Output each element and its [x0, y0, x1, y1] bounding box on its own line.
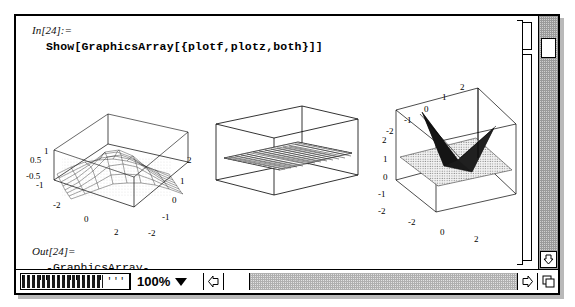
ruler-ticks — [22, 275, 103, 288]
svg-text:2: 2 — [474, 234, 479, 242]
output-prompt-label: Out[24]= — [32, 245, 75, 257]
vertical-scrollbar-thumb[interactable] — [541, 38, 556, 58]
horizontal-scrollbar[interactable] — [250, 273, 518, 290]
vertical-scrollbar[interactable] — [538, 16, 558, 269]
input-prompt-label: In[24]:= — [32, 24, 72, 36]
left-arrow-icon — [207, 275, 220, 288]
svg-text:-1: -1 — [36, 180, 44, 190]
svg-text:-1: -1 — [162, 212, 170, 222]
down-arrow-icon — [543, 254, 554, 265]
status-bar: ''' 100% — [16, 269, 558, 293]
zoom-value: 100% — [137, 274, 170, 289]
svg-text:2: 2 — [187, 155, 192, 165]
output-code-cell: -GraphicsArray- — [46, 261, 150, 269]
input-code-cell[interactable]: Show[GraphicsArray[{plotf,plotz,both}]] — [46, 40, 323, 53]
cell-bracket-input[interactable] — [522, 22, 532, 50]
status-blank-box — [224, 273, 250, 290]
notebook-content[interactable]: In[24]:= Show[GraphicsArray[{plotf,plotz… — [16, 16, 518, 269]
cell-bracket-column — [518, 16, 534, 269]
plotf-svg: 1 0.5 -0.5 -1 -2 0 2 2 — [22, 62, 197, 242]
plotz-svg — [198, 62, 373, 242]
scroll-down-button[interactable] — [540, 251, 557, 268]
ruler-marks: ''' — [107, 277, 126, 287]
stacked-windows-icon — [542, 275, 555, 288]
svg-text:0: 0 — [424, 104, 429, 114]
svg-text:-2: -2 — [148, 228, 156, 238]
svg-text:1: 1 — [442, 92, 447, 102]
plot-both[interactable]: 2 1 0 -1 -2 2 1 0 -1 -2 — [374, 62, 518, 242]
svg-text:1: 1 — [180, 176, 185, 186]
svg-text:0.5: 0.5 — [30, 155, 42, 165]
svg-text:2: 2 — [460, 82, 465, 92]
right-arrow-icon — [521, 275, 534, 288]
svg-text:-2: -2 — [386, 126, 394, 136]
svg-text:1: 1 — [44, 146, 49, 156]
svg-text:0: 0 — [440, 227, 445, 237]
svg-text:2: 2 — [114, 227, 119, 237]
svg-text:-2: -2 — [53, 200, 61, 210]
back-arrow-button[interactable] — [204, 273, 224, 290]
cell-bracket-group[interactable] — [517, 20, 523, 265]
svg-text:2: 2 — [382, 135, 387, 145]
svg-text:1: 1 — [383, 154, 388, 164]
zoom-selector[interactable]: 100% — [130, 273, 204, 290]
svg-text:-1: -1 — [404, 115, 412, 125]
magnification-ruler[interactable]: ''' — [20, 273, 130, 290]
window-stack-button[interactable] — [538, 273, 558, 290]
forward-arrow-button[interactable] — [518, 273, 538, 290]
svg-text:0: 0 — [383, 172, 388, 182]
plot-plotz[interactable] — [198, 62, 373, 242]
svg-text:0: 0 — [84, 214, 89, 224]
svg-text:-2: -2 — [408, 217, 416, 227]
cell-bracket-output[interactable] — [522, 54, 532, 261]
svg-text:-2: -2 — [378, 206, 386, 216]
screenshot-root: In[24]:= Show[GraphicsArray[{plotf,plotz… — [0, 0, 575, 307]
both-svg: 2 1 0 -1 -2 2 1 0 -1 -2 — [374, 62, 518, 242]
chevron-down-icon[interactable] — [175, 278, 187, 286]
svg-text:0: 0 — [172, 195, 177, 205]
svg-text:-1: -1 — [378, 189, 386, 199]
plot-plotf[interactable]: 1 0.5 -0.5 -1 -2 0 2 2 — [22, 62, 197, 242]
notebook-window: In[24]:= Show[GraphicsArray[{plotf,plotz… — [14, 14, 560, 295]
graphics-array: 1 0.5 -0.5 -1 -2 0 2 2 — [16, 62, 516, 242]
